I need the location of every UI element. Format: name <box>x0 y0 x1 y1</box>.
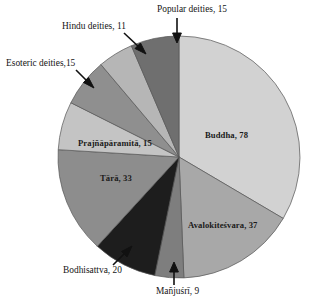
slice-label-prajnaparamita: Prajñāpāramitā, 15 <box>78 139 152 148</box>
slice-label-avalokitesvara: Avalokiteśvara, 37 <box>188 221 257 230</box>
callout-label-hindu-deities: Hindu deities, 11 <box>62 22 126 31</box>
callout-label-bodhisattva: Bodhisattva, 20 <box>63 266 122 275</box>
callout-label-esoteric-deities: Esoteric deities,15 <box>6 59 75 68</box>
pie-slice-group <box>58 36 300 278</box>
pie-chart: Buddha, 78 Avalokiteśvara, 37 Tārā, 33 P… <box>0 0 315 304</box>
slice-label-buddha: Buddha, 78 <box>205 131 248 140</box>
slice-label-tara: Tārā, 33 <box>100 174 132 183</box>
pie-chart-canvas <box>0 0 315 304</box>
callout-label-popular-deities: Popular deities, 15 <box>157 5 227 14</box>
callout-label-manjusri: Mañjuśrī, 9 <box>156 287 199 296</box>
